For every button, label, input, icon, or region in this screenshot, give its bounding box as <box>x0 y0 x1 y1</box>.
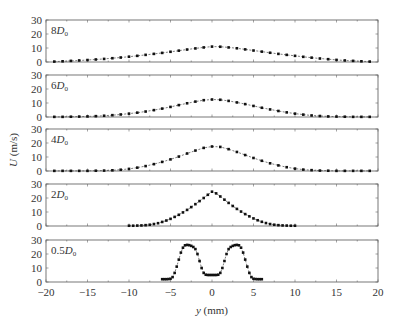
data-point <box>368 116 371 119</box>
data-point <box>165 219 168 222</box>
y-tick-label: 10 <box>31 151 43 163</box>
data-point <box>219 98 222 101</box>
data-point <box>86 115 89 118</box>
panel-frame <box>46 20 378 62</box>
series-line <box>54 100 369 117</box>
data-point <box>285 54 288 57</box>
data-point <box>78 170 81 173</box>
data-point <box>236 208 239 211</box>
data-point <box>360 116 363 119</box>
data-point <box>285 166 288 169</box>
y-tick-label: 30 <box>31 123 43 135</box>
data-point <box>194 203 197 206</box>
data-point <box>95 169 98 172</box>
data-point <box>202 46 205 49</box>
panel-2D0: 01020302D0 <box>31 178 378 232</box>
data-point <box>128 112 131 115</box>
data-point <box>227 202 230 205</box>
data-point <box>344 59 347 62</box>
data-point <box>53 170 56 173</box>
y-tick-label: 0 <box>37 111 43 123</box>
data-point <box>261 159 264 162</box>
data-point <box>215 192 218 195</box>
data-point <box>53 116 56 119</box>
data-point <box>128 168 131 171</box>
y-tick-label: 0 <box>37 56 43 68</box>
data-point <box>103 114 106 117</box>
data-point <box>265 222 268 225</box>
data-point <box>327 115 330 118</box>
y-tick-label: 10 <box>31 97 43 109</box>
x-tick-label: 10 <box>290 286 302 298</box>
data-point <box>95 58 98 61</box>
data-point <box>194 248 197 251</box>
chart: 01020308D001020306D001020304D001020302D0… <box>0 0 393 324</box>
x-tick-label: 20 <box>373 286 385 298</box>
panel-frame <box>46 75 378 117</box>
data-point <box>277 164 280 167</box>
data-point <box>277 224 280 227</box>
data-point <box>344 170 347 173</box>
data-point <box>310 169 313 172</box>
data-point <box>180 251 183 254</box>
data-point <box>186 152 189 155</box>
y-tick-label: 20 <box>31 248 43 260</box>
data-point <box>111 169 114 172</box>
data-point <box>327 169 330 172</box>
panels: 01020308D001020306D001020304D001020302D0… <box>31 14 378 288</box>
y-tick-label: 0 <box>37 165 43 177</box>
y-axis-label: U (m/s) <box>7 133 20 167</box>
data-point <box>103 58 106 61</box>
data-point <box>261 278 264 281</box>
y-tick-label: 20 <box>31 137 43 149</box>
data-point <box>178 155 181 158</box>
data-point <box>178 214 181 217</box>
data-point <box>61 116 64 119</box>
data-point <box>335 170 338 173</box>
x-tick-label: 5 <box>251 286 257 298</box>
data-point <box>153 223 156 226</box>
data-point <box>219 272 222 275</box>
data-point <box>202 197 205 200</box>
data-point <box>252 105 255 108</box>
data-point <box>302 168 305 171</box>
x-axis-label: y (mm) <box>195 304 228 317</box>
data-point <box>248 215 251 218</box>
data-point <box>368 170 371 173</box>
data-point <box>319 169 322 172</box>
data-point <box>244 213 247 216</box>
data-point <box>128 224 131 227</box>
panel-label: 2D0 <box>51 188 68 202</box>
data-point <box>248 272 251 275</box>
data-point <box>136 55 139 58</box>
data-point <box>153 53 156 56</box>
data-point <box>173 216 176 219</box>
series-line <box>54 47 369 62</box>
data-point <box>128 55 131 58</box>
data-point <box>227 46 230 49</box>
data-point <box>261 50 264 53</box>
data-point <box>95 115 98 118</box>
data-point <box>225 253 228 256</box>
x-tick-label: 0 <box>209 286 215 298</box>
panel-8D0: 01020308D0 <box>31 14 378 68</box>
data-point <box>178 104 181 107</box>
data-point <box>211 190 214 193</box>
data-point <box>171 276 174 279</box>
data-point <box>352 170 355 173</box>
y-tick-label: 30 <box>31 234 43 246</box>
data-point <box>161 52 164 55</box>
data-point <box>86 170 89 173</box>
x-tick-label: −10 <box>120 286 138 298</box>
panel-label: 0.5D0 <box>51 244 77 258</box>
data-point <box>269 108 272 111</box>
data-point <box>211 145 214 148</box>
data-point <box>294 55 297 58</box>
data-point <box>238 244 241 247</box>
x-tick-label: 15 <box>331 286 343 298</box>
data-point <box>194 149 197 152</box>
data-point <box>186 102 189 105</box>
data-point <box>219 45 222 48</box>
panel-label: 6D0 <box>51 79 68 93</box>
data-point <box>70 60 73 63</box>
